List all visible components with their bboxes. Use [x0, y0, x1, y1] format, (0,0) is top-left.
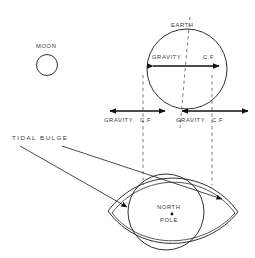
moon-group: MOON [36, 43, 58, 76]
earth-group: EARTH GRAVITY C.F [143, 17, 227, 185]
moon-circle [37, 55, 58, 76]
north-pole-circle [128, 174, 204, 250]
gravity-center-label: GRAVITY [152, 54, 181, 60]
cf-right-label: C.F [212, 117, 223, 123]
gravity-right-label: GRAVITY [176, 117, 205, 123]
cf-center-label: C.F [203, 54, 214, 60]
tidal-bulge-leader-left [20, 146, 127, 207]
cf-left-label: C.F [140, 117, 151, 123]
gravity-left-label: GRAVITY [104, 117, 133, 123]
north-pole-dot [171, 213, 174, 216]
tidal-bulge-diagram: MOON EARTH GRAVITY C.F GRAVITY C.F [0, 0, 255, 258]
diagram-canvas: MOON EARTH GRAVITY C.F GRAVITY C.F [0, 0, 255, 258]
tidal-bulge-group: NORTH POLE [108, 174, 238, 250]
north-pole-label-line2: POLE [160, 217, 178, 223]
tidal-bulge-leader-right [62, 146, 222, 199]
left-force-pair: GRAVITY C.F [104, 111, 165, 123]
tidal-bulge-callout: TIDAL BULGE [12, 134, 222, 207]
earth-circle [147, 29, 227, 109]
moon-label: MOON [36, 43, 56, 49]
earth-label: EARTH [171, 22, 194, 28]
tidal-bulge-label: TIDAL BULGE [12, 134, 69, 141]
right-force-pair: GRAVITY C.F [176, 111, 248, 123]
north-pole-label-line1: NORTH [157, 204, 181, 210]
